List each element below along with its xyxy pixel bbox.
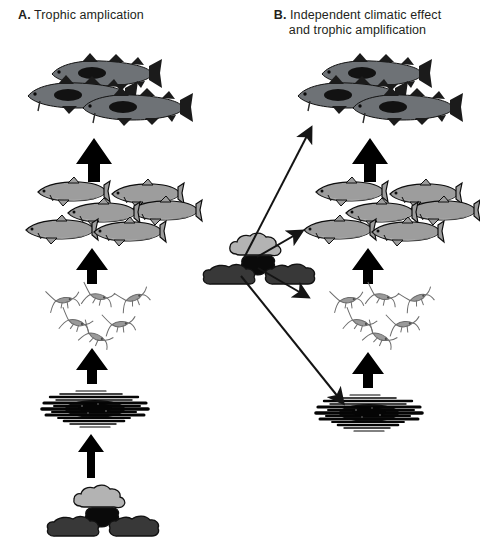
copepod bbox=[362, 281, 401, 314]
panel-a-title-text: Trophic amplication bbox=[34, 8, 144, 22]
panel-b-arrow-herring-to-cod bbox=[352, 138, 388, 182]
panel-a-herring-group bbox=[14, 180, 202, 246]
panel-b-cod-group bbox=[292, 57, 477, 137]
panel-a-arrow-copepods-to-herring bbox=[76, 248, 108, 284]
panel-b-climate-symbol bbox=[196, 232, 320, 284]
cod-fish bbox=[347, 91, 463, 124]
panel-b-tag: B. bbox=[274, 8, 287, 22]
panel-a-cod-group bbox=[22, 57, 207, 137]
panel-a-title: A. Trophic amplication bbox=[18, 8, 144, 23]
panel-b-herring-group bbox=[292, 180, 480, 246]
panel-a-phytoplankton bbox=[36, 386, 154, 430]
panel-b-title-text-line2: and trophic amplification bbox=[250, 23, 465, 38]
herring-fish bbox=[84, 220, 166, 243]
figure-caption bbox=[0, 530, 473, 544]
panel-a-arrow-climate-to-phytoplankton bbox=[76, 434, 106, 478]
panel-b-phytoplankton bbox=[310, 390, 428, 434]
panel-a-climate-symbol bbox=[40, 484, 164, 536]
panel-b-copepod-group bbox=[330, 284, 442, 346]
herring-fish bbox=[306, 180, 388, 203]
panel-a-tag: A. bbox=[18, 8, 31, 22]
panel-b-arrow-phytoplankton-to-copepods bbox=[352, 352, 384, 388]
panel-b-title-text: Independent climatic effect bbox=[290, 8, 441, 22]
panel-a-arrow-herring-to-cod bbox=[76, 138, 112, 182]
panel-b-arrow-climate-to-phytoplankton bbox=[241, 276, 343, 403]
panel-b-title: B. Independent climatic effect and troph… bbox=[250, 8, 465, 38]
cod-fish bbox=[77, 91, 193, 124]
copepod bbox=[78, 281, 117, 314]
panel-a-arrow-phytoplankton-to-copepods bbox=[76, 348, 108, 384]
panel-b-arrow-copepods-to-herring bbox=[352, 248, 384, 284]
herring-fish bbox=[28, 180, 110, 203]
herring-fish bbox=[362, 220, 444, 243]
panel-a-copepod-group bbox=[46, 284, 158, 346]
